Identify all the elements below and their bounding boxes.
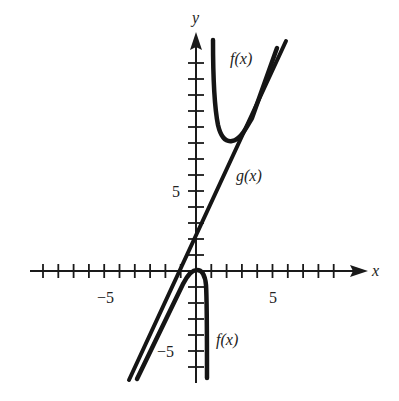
f-upper-label: f(x): [230, 50, 252, 68]
y-tick-label-neg5: −5: [157, 343, 174, 360]
g-label: g(x): [236, 167, 262, 185]
x-axis-label: x: [371, 262, 379, 279]
x-tick-label-neg5: −5: [97, 289, 114, 306]
y-axis-label: y: [190, 9, 200, 27]
y-tick-label-5: 5: [172, 183, 180, 200]
f-lower-label: f(x): [216, 331, 238, 349]
function-graph: y x −5 5 5 −5 f(x) g(x) f(x): [0, 0, 399, 401]
x-tick-label-5: 5: [269, 289, 277, 306]
